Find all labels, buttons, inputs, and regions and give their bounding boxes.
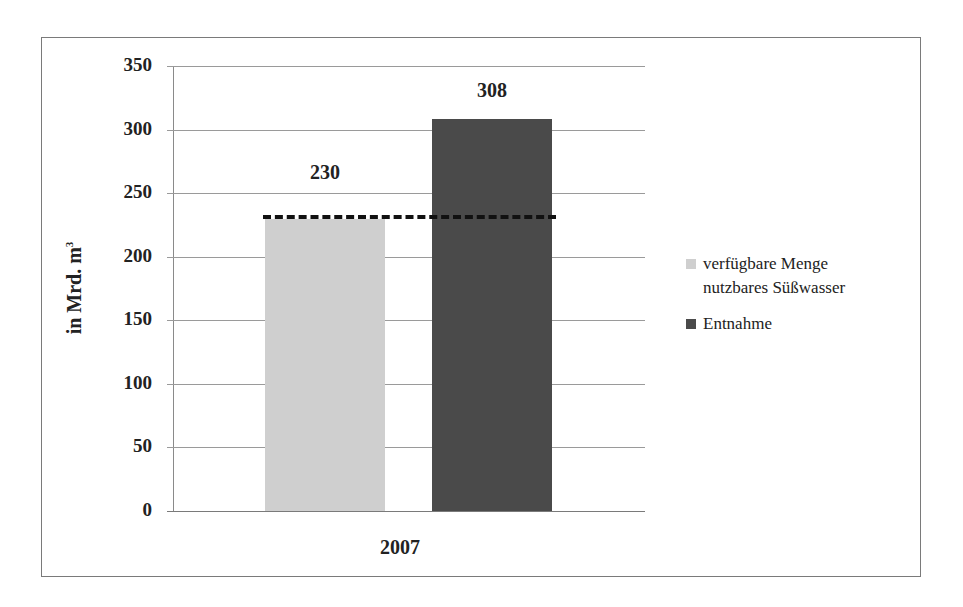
y-tick-label: 300 — [92, 119, 152, 139]
legend-swatch-light-icon — [686, 259, 696, 269]
legend-label-line2: nutzbares Süßwasser — [703, 276, 906, 300]
bar-withdrawal — [432, 119, 552, 511]
y-tick-label: 350 — [92, 55, 152, 75]
gridline — [167, 384, 645, 385]
legend-label-line1: verfügbare Menge — [703, 252, 906, 276]
reference-dashed-line — [263, 215, 556, 219]
x-category-label: 2007 — [350, 536, 450, 559]
y-tick-label: 150 — [92, 309, 152, 329]
y-tick-label: 200 — [92, 246, 152, 266]
y-axis-title: in Mrd. m3 — [63, 242, 86, 335]
y-tick-label: 0 — [92, 500, 152, 520]
gridline — [167, 130, 645, 131]
legend-label: Entnahme — [703, 312, 906, 336]
gridline — [167, 257, 645, 258]
legend: verfügbare Menge nutzbares Süßwasser Ent… — [686, 252, 906, 348]
bar-value-label: 308 — [432, 79, 552, 101]
x-axis-line — [167, 511, 645, 512]
legend-item-available-freshwater: verfügbare Menge nutzbares Süßwasser — [686, 252, 906, 300]
gridline — [167, 193, 645, 194]
legend-swatch-dark-icon — [686, 319, 696, 329]
gridline — [167, 447, 645, 448]
bar-value-label: 230 — [265, 161, 385, 183]
legend-item-withdrawal: Entnahme — [686, 312, 906, 336]
bar-available-freshwater — [265, 219, 385, 511]
y-tick-label: 250 — [92, 182, 152, 202]
y-tick-label: 50 — [92, 436, 152, 456]
gridline — [167, 320, 645, 321]
y-tick-label: 100 — [92, 373, 152, 393]
gridline — [167, 66, 645, 67]
y-axis-line — [173, 66, 174, 512]
